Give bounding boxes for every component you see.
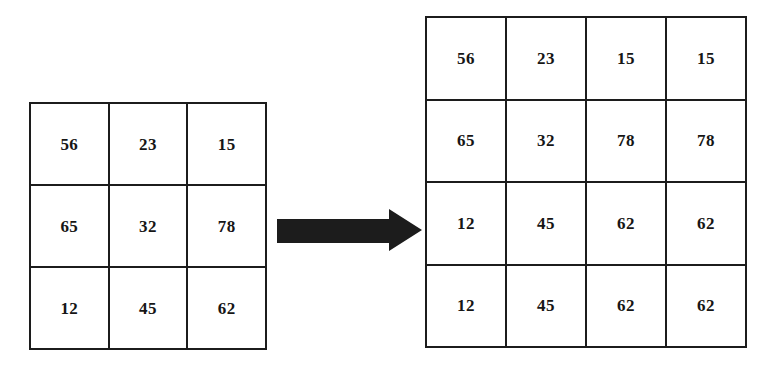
source-matrix-cell: 65 — [31, 186, 110, 268]
result-matrix-cell: 78 — [667, 101, 747, 184]
source-matrix-cell: 15 — [188, 104, 267, 186]
result-matrix-cell: 62 — [587, 183, 667, 266]
source-matrix-cell: 56 — [31, 104, 110, 186]
result-matrix-cell: 15 — [587, 18, 667, 101]
arrow-shape — [277, 209, 422, 251]
result-matrix-cell: 23 — [507, 18, 587, 101]
source-matrix-cell: 45 — [110, 268, 189, 350]
result-matrix: 56231515653278781245626212456262 — [425, 16, 747, 348]
source-matrix-cell: 12 — [31, 268, 110, 350]
result-matrix-cell: 12 — [427, 183, 507, 266]
result-matrix-cell: 62 — [667, 183, 747, 266]
result-matrix-cell: 12 — [427, 266, 507, 349]
result-matrix-cell: 62 — [667, 266, 747, 349]
result-matrix-cell: 56 — [427, 18, 507, 101]
source-matrix-cell: 32 — [110, 186, 189, 268]
result-matrix-cell: 45 — [507, 183, 587, 266]
right-arrow-icon — [277, 206, 422, 254]
result-matrix-cell: 15 — [667, 18, 747, 101]
result-matrix-cell: 32 — [507, 101, 587, 184]
figure-canvas: 562315653278124562 562315156532787812456… — [0, 0, 777, 379]
source-matrix-cell: 23 — [110, 104, 189, 186]
source-matrix-cell: 78 — [188, 186, 267, 268]
source-matrix-cell: 62 — [188, 268, 267, 350]
result-matrix-cell: 62 — [587, 266, 667, 349]
result-matrix-cell: 78 — [587, 101, 667, 184]
result-matrix-cell: 45 — [507, 266, 587, 349]
result-matrix-cell: 65 — [427, 101, 507, 184]
source-matrix: 562315653278124562 — [29, 102, 267, 350]
